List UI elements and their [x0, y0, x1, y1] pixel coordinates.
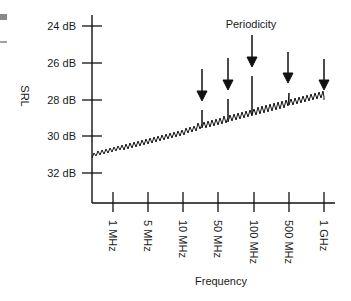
periodicity-annotation: Periodicity [226, 18, 277, 30]
x-tick-label: 1 GHz [318, 220, 330, 251]
x-tick-label: 50 MHz [212, 220, 224, 258]
y-tick-label: 26 dB [47, 57, 76, 69]
y-tick-labels: 24 dB 26 dB 28 dB 30 dB 32 dB [47, 20, 76, 179]
srl-chart: 24 dB 26 dB 28 dB 30 dB 32 dB SRL 1 MHz … [0, 0, 351, 301]
y-tick-label: 32 dB [47, 167, 76, 179]
x-tick-label: 1 MHz [107, 220, 119, 252]
margin-fragment [0, 14, 7, 20]
periodicity-arrows [197, 35, 329, 101]
x-tick-label: 100 MHz [248, 220, 260, 264]
x-tick-label: 5 MHz [142, 220, 154, 252]
y-axis-label: SRL [19, 85, 31, 106]
srl-trace [92, 76, 324, 158]
x-ticks [113, 192, 324, 212]
x-tick-labels: 1 MHz 5 MHz 10 MHz 50 MHz 100 MHz 500 MH… [107, 220, 330, 264]
y-tick-label: 24 dB [47, 20, 76, 32]
y-tick-label: 28 dB [47, 94, 76, 106]
x-tick-label: 500 MHz [283, 220, 295, 264]
x-axis-label: Frequency [195, 275, 247, 287]
x-tick-label: 10 MHz [177, 220, 189, 258]
y-tick-label: 30 dB [47, 130, 76, 142]
